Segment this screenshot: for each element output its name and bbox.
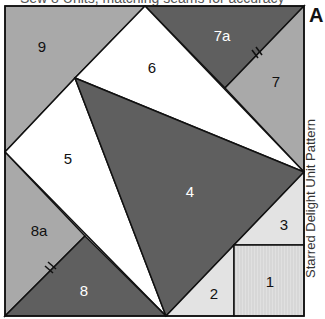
label-4: 4 [186,183,194,200]
side-label: Starred Delight Unit Pattern [303,18,318,278]
label-7: 7 [272,73,280,90]
label-7a: 7a [214,27,231,44]
label-1: 1 [266,273,274,290]
label-9: 9 [38,38,46,55]
label-2: 2 [210,285,218,302]
label-6: 6 [148,59,156,76]
quilt-unit-pattern: 9 7a 7 6 5 4 8a 8 3 2 1 [0,0,325,319]
label-5: 5 [64,150,72,167]
label-8a: 8a [31,222,48,239]
label-3: 3 [280,216,288,233]
label-8: 8 [80,282,88,299]
